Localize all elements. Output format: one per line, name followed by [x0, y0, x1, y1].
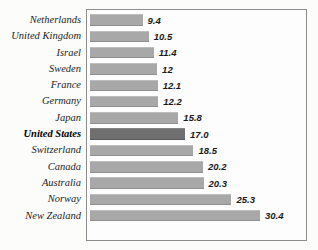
bar-value-label: 18.5	[198, 145, 217, 156]
category-label: Norway	[0, 191, 86, 207]
bar-row: 12.2	[90, 93, 306, 109]
bar	[90, 210, 260, 222]
bar	[90, 14, 143, 26]
bar	[90, 194, 231, 206]
bar-value-label: 9.4	[148, 15, 161, 26]
category-label: Switzerland	[0, 142, 86, 158]
bar-row: 17.0	[90, 126, 306, 142]
chart-title-remnant	[0, 0, 318, 7]
category-label: Canada	[0, 159, 86, 175]
bar-row: 20.2	[90, 159, 306, 175]
bar-value-label: 12	[162, 64, 173, 75]
category-label: New Zealand	[0, 208, 86, 224]
bar-row: 20.3	[90, 175, 306, 191]
bar-row: 15.8	[90, 110, 306, 126]
chart-page: NetherlandsUnited KingdomIsraelSwedenFra…	[0, 0, 318, 250]
category-label: Australia	[0, 175, 86, 191]
bar-value-label: 12.2	[163, 96, 182, 107]
bar-value-label: 20.2	[208, 161, 227, 172]
bar-row: 9.4	[90, 12, 306, 28]
bar-value-label: 17.0	[190, 129, 209, 140]
category-label: Israel	[0, 45, 86, 61]
bar	[90, 145, 193, 157]
bar	[90, 47, 154, 59]
bar-value-label: 30.4	[265, 210, 284, 221]
bar	[90, 161, 203, 173]
category-label: Germany	[0, 93, 86, 109]
bar	[90, 112, 178, 124]
category-label: Netherlands	[0, 12, 86, 28]
category-label: United Kingdom	[0, 28, 86, 44]
bar-row: 10.5	[90, 28, 306, 44]
bar	[90, 63, 157, 75]
bar-value-label: 20.3	[209, 178, 228, 189]
bar-row: 12.1	[90, 77, 306, 93]
bar-value-label: 25.3	[236, 194, 255, 205]
bar-row: 25.3	[90, 191, 306, 207]
category-axis-labels: NetherlandsUnited KingdomIsraelSwedenFra…	[0, 9, 86, 241]
plot-area: 9.410.511.41212.112.215.817.018.520.220.…	[86, 9, 307, 241]
category-label: United States	[0, 126, 86, 142]
bar-value-label: 12.1	[163, 80, 182, 91]
bar-row: 30.4	[90, 208, 306, 224]
bar-value-label: 11.4	[159, 47, 177, 58]
bar-chart: NetherlandsUnited KingdomIsraelSwedenFra…	[0, 9, 318, 241]
bar	[90, 31, 149, 43]
bar	[90, 80, 158, 92]
bar-row: 12	[90, 61, 306, 77]
bar-row: 18.5	[90, 142, 306, 158]
bar	[90, 177, 204, 189]
bar-value-label: 15.8	[183, 112, 202, 123]
category-label: Sweden	[0, 61, 86, 77]
bar	[90, 96, 158, 108]
bar-value-label: 10.5	[154, 31, 173, 42]
bar-row: 11.4	[90, 45, 306, 61]
bar-highlighted	[90, 128, 185, 140]
category-label: Japan	[0, 110, 86, 126]
category-label: France	[0, 77, 86, 93]
